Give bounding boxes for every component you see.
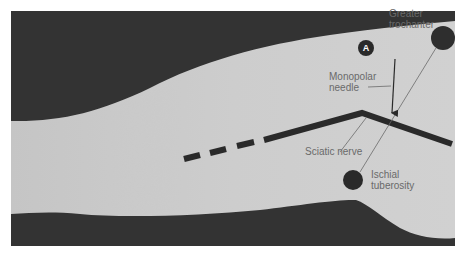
greater-trochanter-marker — [431, 26, 455, 50]
ischial-tuberosity-marker — [343, 170, 363, 190]
monopolar-needle-label: Monopolar needle — [329, 71, 376, 93]
anatomy-photo: A Greater trochanter Monopolar needle Sc… — [0, 0, 467, 253]
greater-trochanter-label: Greater trochanter — [389, 8, 434, 30]
photo-illustration — [0, 0, 467, 253]
marker-a-label: A — [358, 40, 374, 56]
ischial-tuberosity-label: Ischial tuberosity — [371, 169, 414, 191]
sciatic-nerve-label: Sciatic nerve — [305, 146, 362, 157]
